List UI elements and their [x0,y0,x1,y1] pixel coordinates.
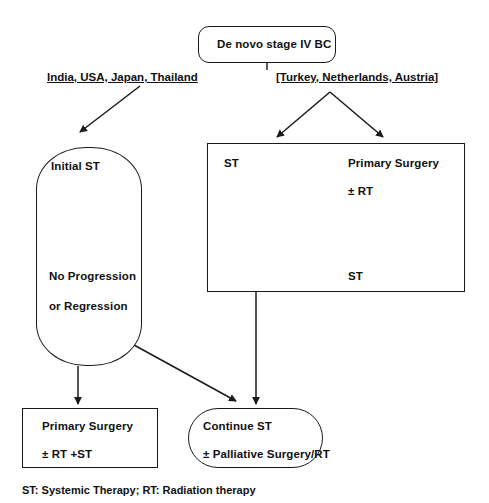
node-or-regression-label: or Regression [49,300,128,312]
node-primary-surgery-label: Primary Surgery [348,157,439,169]
node-outcome-primary-surgery-line2: ± RT +ST [42,448,92,460]
arrow-right-label-to-st [277,92,330,137]
arrow-right-label-to-primary-surgery [330,92,383,137]
arrow-ellipse-to-continue-st [134,345,236,401]
node-left-pathway-container [36,147,142,366]
node-no-progression-label: No Progression [49,270,136,282]
arrow-left-label-to-initial-st [80,86,140,132]
branch-label-left: India, USA, Japan, Thailand [47,71,198,83]
node-de-novo-stage-iv-bc-label: De novo stage IV BC [217,38,331,50]
node-outcome-continue-st-line2: ± Palliative Surgery/RT [203,448,330,460]
node-right-outcome-st-label: ST [348,270,363,282]
branch-label-right: [Turkey, Netherlands, Austria] [276,71,438,83]
node-outcome-continue-st-line1: Continue ST [203,420,272,432]
flowchart-diagram: De novo stage IV BC India, USA, Japan, T… [0,0,489,503]
node-initial-st-label: Initial ST [51,160,100,172]
node-plus-minus-rt-label: ± RT [348,185,373,197]
node-st-option-label: ST [224,157,239,169]
footer-abbreviation-legend: ST: Systemic Therapy; RT: Radiation ther… [22,484,256,496]
node-outcome-primary-surgery-line1: Primary Surgery [42,420,133,432]
